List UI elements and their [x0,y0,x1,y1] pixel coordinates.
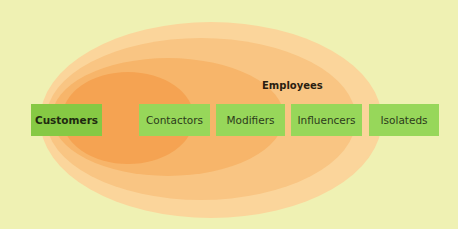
box-isolateds: Isolateds [369,104,439,136]
box-influencers: Influencers [291,104,362,136]
box-contactors: Contactors [139,104,210,136]
box-modifiers: Modifiers [216,104,285,136]
employees-label: Employees [262,80,323,91]
box-customers: Customers [31,104,102,136]
diagram-canvas: Employees Customers Contactors Modifiers… [0,0,458,229]
